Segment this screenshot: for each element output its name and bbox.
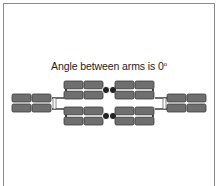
left-outer-array — [12, 94, 64, 112]
panel-diagram — [0, 0, 218, 186]
right-inner-array-bottom — [115, 107, 154, 125]
left-inner-array-top — [64, 81, 103, 99]
right-inner-array-top — [115, 81, 154, 99]
hinge-bottom — [102, 112, 116, 119]
hinge-top — [102, 86, 116, 93]
left-inner-array-bottom — [64, 107, 103, 125]
right-outer-array — [155, 94, 206, 112]
